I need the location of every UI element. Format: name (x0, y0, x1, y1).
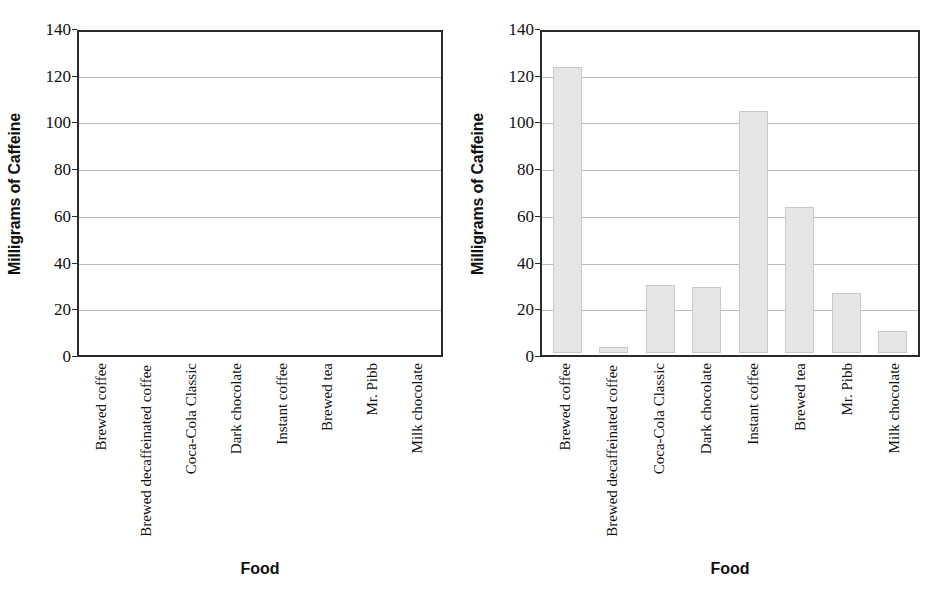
bar-slot (544, 34, 591, 353)
y-axis-tick-label: 100 (25, 114, 71, 131)
x-axis-category-label: Milk chocolate (887, 363, 903, 453)
x-axis-label-slot: Brewed decaffeinated coffee (589, 359, 636, 549)
y-axis-title-right-text: Milligrams of Caffeine (469, 113, 487, 275)
bar-slot (730, 34, 777, 353)
bar-slot (823, 34, 870, 353)
bar (599, 347, 628, 353)
x-axis-label-slot: Brewed coffee (79, 359, 124, 549)
y-axis-tick-label: 60 (25, 208, 71, 225)
bar-slot (215, 34, 260, 353)
bar-slot (126, 34, 171, 353)
x-axis-category-label: Brewed coffee (558, 363, 574, 451)
bar-slot (260, 34, 305, 353)
y-axis-tick-label: 0 (488, 348, 534, 365)
bar-slot (591, 34, 638, 353)
bar (878, 331, 907, 353)
x-axis-category-label: Dark chocolate (699, 363, 715, 454)
bar-slot (171, 34, 216, 353)
bar-slot (684, 34, 731, 353)
bar-slot (870, 34, 917, 353)
y-axis-tick-label: 0 (25, 348, 71, 365)
y-axis-tick-label: 140 (488, 21, 534, 38)
bar-slot (81, 34, 126, 353)
x-axis-title-left: Food (77, 560, 443, 578)
x-axis-label-slot: Coca-Cola Classic (170, 359, 215, 549)
bar-slot (394, 34, 439, 353)
bar-slot (637, 34, 684, 353)
x-axis-category-label: Brewed decaffeinated coffee (605, 365, 621, 545)
y-axis-tick-label: 120 (488, 68, 534, 85)
x-axis-label-slot: Brewed tea (305, 359, 350, 549)
x-axis-category-label: Brewed coffee (94, 363, 110, 451)
x-axis-category-label: Brewed decaffeinated coffee (139, 365, 155, 545)
x-axis-label-slot: Mr. Pibb (351, 359, 396, 549)
x-axis-category-label: Instant coffee (275, 363, 291, 445)
x-axis-category-label: Brewed tea (320, 363, 336, 431)
plot-area-right (540, 30, 920, 357)
x-axis-labels-left: Brewed coffeeBrewed decaffeinated coffee… (79, 359, 441, 549)
bar-slot (350, 34, 395, 353)
y-axis-title-left-text: Milligrams of Caffeine (6, 113, 24, 275)
chart-panel-right: Milligrams of Caffeine 02040608010012014… (463, 0, 926, 608)
x-axis-labels-right: Brewed coffeeBrewed decaffeinated coffee… (542, 359, 918, 549)
x-axis-category-label: Coca-Cola Classic (652, 363, 668, 474)
x-axis-label-slot: Milk chocolate (396, 359, 441, 549)
y-axis-tick-label: 20 (25, 301, 71, 318)
plot-area-left (77, 30, 443, 357)
bar (739, 111, 768, 353)
y-axis-tick-label: 120 (25, 68, 71, 85)
chart-panel-left: Milligrams of Caffeine 02040608010012014… (0, 0, 463, 608)
x-axis-category-label: Mr. Pibb (840, 363, 856, 416)
x-axis-label-slot: Coca-Cola Classic (636, 359, 683, 549)
x-axis-category-label: Brewed tea (793, 363, 809, 431)
bar (785, 207, 814, 354)
x-axis-category-label: Coca-Cola Classic (184, 363, 200, 474)
x-axis-label-slot: Brewed decaffeinated coffee (124, 359, 169, 549)
y-axis-tick-label: 140 (25, 21, 71, 38)
x-axis-label-slot: Dark chocolate (683, 359, 730, 549)
bar (692, 287, 721, 353)
x-axis-label-slot: Mr. Pibb (824, 359, 871, 549)
bar-slot (777, 34, 824, 353)
bar (646, 285, 675, 353)
y-axis-tick-label: 100 (488, 114, 534, 131)
x-axis-category-label: Milk chocolate (411, 363, 427, 453)
bars-left (81, 34, 439, 353)
bars-right (544, 34, 916, 353)
x-axis-category-label: Mr. Pibb (365, 363, 381, 416)
x-axis-title-right: Food (540, 560, 920, 578)
y-axis-tick-label: 20 (488, 301, 534, 318)
x-axis-label-slot: Instant coffee (730, 359, 777, 549)
x-axis-category-label: Instant coffee (746, 363, 762, 445)
x-axis-label-slot: Instant coffee (260, 359, 305, 549)
y-axis-tick-label: 40 (488, 255, 534, 272)
bar (832, 293, 861, 353)
x-axis-label-slot: Brewed tea (777, 359, 824, 549)
y-axis-tick-label: 80 (488, 161, 534, 178)
y-axis-tick-label: 40 (25, 255, 71, 272)
bar-slot (305, 34, 350, 353)
x-axis-label-slot: Dark chocolate (215, 359, 260, 549)
x-axis-label-slot: Milk chocolate (871, 359, 918, 549)
x-axis-category-label: Dark chocolate (230, 363, 246, 454)
y-axis-tick-label: 80 (25, 161, 71, 178)
x-axis-label-slot: Brewed coffee (542, 359, 589, 549)
y-axis-tick-label: 60 (488, 208, 534, 225)
bar (553, 67, 582, 353)
